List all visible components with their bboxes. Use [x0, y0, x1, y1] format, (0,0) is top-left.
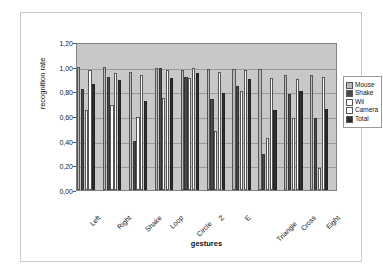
bar: [140, 75, 143, 190]
x-axis-tick-label: Loop: [168, 214, 184, 230]
bar-group: [284, 44, 310, 190]
bar: [236, 86, 239, 190]
legend-swatch-icon: [346, 99, 353, 106]
bar: [85, 110, 88, 190]
bar-group: [310, 44, 336, 190]
bar: [103, 67, 106, 190]
bar: [292, 118, 295, 190]
bar: [196, 73, 199, 190]
bar: [170, 78, 173, 190]
x-axis-tick-label: Shake: [143, 214, 162, 233]
bar: [284, 75, 287, 190]
y-axis-tick-label: 0,60: [59, 114, 73, 121]
legend-item: Camera: [346, 107, 378, 114]
bar: [273, 110, 276, 190]
legend-label: Wii: [355, 99, 364, 106]
bar: [81, 89, 84, 190]
x-axis-tick-label: E: [243, 214, 251, 222]
y-axis-tick-label: 0,20: [59, 163, 73, 170]
legend-item: Total: [346, 116, 378, 123]
bar: [266, 138, 269, 190]
legend-swatch-icon: [346, 116, 353, 123]
bar: [314, 118, 317, 190]
bar: [166, 70, 169, 190]
bar-group: [77, 44, 103, 190]
bar: [129, 72, 132, 190]
legend-item: Wii: [346, 99, 378, 106]
legend-item: Shake: [346, 90, 378, 97]
bar: [114, 73, 117, 190]
bar-group: [103, 44, 129, 190]
y-axis-tick-label: 0,40: [59, 138, 73, 145]
bar: [207, 69, 210, 190]
bar: [88, 70, 91, 190]
bar: [181, 70, 184, 190]
legend-label: Shake: [355, 90, 373, 97]
x-axis-tick-label: Right: [116, 214, 133, 231]
bar: [244, 70, 247, 190]
bar: [136, 117, 139, 190]
bar: [325, 109, 328, 190]
y-axis-ticks: 1,201,000,800,600,400,200,00: [39, 43, 73, 191]
bar: [240, 91, 243, 190]
x-axis-tick-label: Z: [217, 214, 225, 222]
x-axis-tick-label: Cross: [300, 214, 318, 232]
bar: [288, 94, 291, 190]
bar: [299, 91, 302, 190]
bar-group: [207, 44, 233, 190]
bar: [258, 69, 261, 190]
bar: [192, 68, 195, 190]
bar: [214, 131, 217, 190]
bar: [162, 98, 165, 191]
bar: [144, 101, 147, 190]
bar: [92, 84, 95, 190]
bar: [322, 77, 325, 190]
y-axis-tick-label: 0,00: [59, 188, 73, 195]
legend-swatch-icon: [346, 82, 353, 89]
plot-area: [76, 43, 337, 191]
bar: [222, 93, 225, 190]
legend-label: Mouse: [355, 82, 375, 89]
chart-legend: MouseShakeWiiCameraTotal: [343, 76, 382, 128]
x-axis-tick-label: Eight: [325, 214, 341, 230]
legend-label: Total: [355, 116, 369, 123]
bar: [155, 68, 158, 190]
legend-label: Camera: [355, 107, 378, 114]
bar: [248, 79, 251, 190]
bar: [262, 154, 265, 190]
legend-swatch-icon: [346, 107, 353, 114]
bar-group: [232, 44, 258, 190]
bar: [188, 78, 191, 190]
y-axis-tick-label: 1,00: [59, 64, 73, 71]
legend-swatch-icon: [346, 90, 353, 97]
bar-group: [129, 44, 155, 190]
bar: [77, 67, 80, 190]
y-axis-tick-label: 0,80: [59, 89, 73, 96]
bar-group: [155, 44, 181, 190]
bar: [270, 78, 273, 190]
bar: [210, 99, 213, 190]
bar: [159, 68, 162, 190]
bar: [184, 77, 187, 190]
bar: [310, 75, 313, 190]
bar-group: [258, 44, 284, 190]
x-axis-tick-label: Left: [89, 214, 102, 227]
y-axis-tick-mark: [73, 191, 76, 192]
y-axis-tick-label: 1,20: [59, 40, 73, 47]
bar: [232, 69, 235, 190]
legend-item: Mouse: [346, 82, 378, 89]
bar-group: [181, 44, 207, 190]
bar: [110, 105, 113, 190]
bar: [118, 80, 121, 190]
chart-frame: recognition rate 1,201,000,800,600,400,2…: [20, 12, 362, 262]
x-axis-title: gestures: [76, 239, 337, 248]
x-axis-tick-labels: LeftRightShakeLoopCircleZETriangleCrossE…: [76, 193, 337, 237]
bar: [296, 79, 299, 190]
bar: [107, 77, 110, 190]
bar: [218, 72, 221, 190]
bar-series-container: [77, 44, 336, 190]
bar: [133, 141, 136, 190]
bar: [318, 168, 321, 190]
x-axis-tick-label: Circle: [195, 220, 213, 238]
